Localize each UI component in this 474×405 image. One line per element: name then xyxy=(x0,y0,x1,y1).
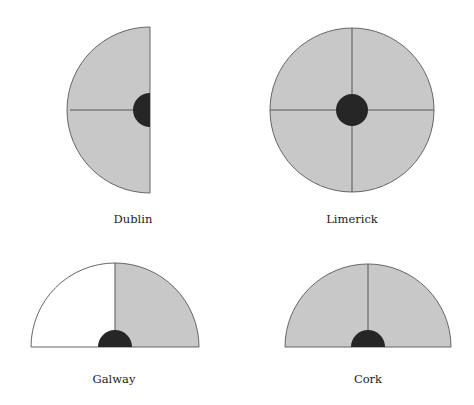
label-limerick: Limerick xyxy=(326,212,378,226)
galway-shape xyxy=(31,263,199,347)
diagram-canvas xyxy=(0,0,474,405)
label-cork: Cork xyxy=(354,372,382,386)
label-galway: Galway xyxy=(93,372,136,386)
dublin-shape xyxy=(67,27,150,193)
label-dublin: Dublin xyxy=(114,212,153,226)
limerick-shape xyxy=(270,28,434,192)
cork-shape xyxy=(285,264,451,347)
